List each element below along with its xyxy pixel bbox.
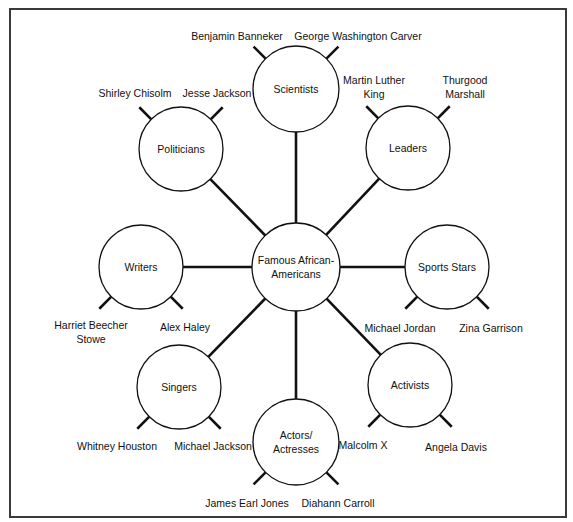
example-label: ThurgoodMarshall [443, 74, 488, 100]
connector-singers-0 [137, 417, 149, 429]
example-label-line: Michael Jordan [364, 322, 435, 334]
connector-activists-0 [368, 415, 380, 427]
connector-sports-stars-1 [477, 297, 489, 309]
example-label-line: Jesse Jackson [183, 87, 252, 99]
example-label-line: James Earl Jones [205, 497, 288, 509]
node-label: Scientists [274, 83, 319, 95]
connector-activists-1 [440, 415, 452, 427]
example-label-line: Shirley Chisolm [99, 87, 172, 99]
connector-scientists-1 [326, 47, 338, 59]
spoke-singers [208, 299, 265, 357]
center-label-line: Famous African- [258, 254, 335, 266]
example-label-line: Diahann Carroll [302, 497, 375, 509]
node-actors-actresses: Actors/Actresses [253, 399, 339, 485]
example-label: George Washington Carver [294, 30, 422, 42]
connector-writers-0 [99, 297, 111, 309]
example-label: Whitney Houston [77, 440, 157, 452]
example-label-line: King [363, 88, 384, 100]
example-label-line: Thurgood [443, 74, 488, 86]
node-politicians: Politicians [139, 107, 223, 191]
example-label-line: Malcolm X [338, 439, 387, 451]
center-node: Famous African-Americans [252, 223, 340, 311]
spoke-leaders [326, 179, 379, 235]
node-singers: Singers [137, 345, 221, 429]
example-label-line: Angela Davis [425, 441, 487, 453]
node-leaders: Leaders [366, 106, 450, 190]
node-label-line: Actors/ [280, 429, 313, 441]
connector-scientists-0 [254, 47, 266, 59]
example-label-line: Benjamin Banneker [191, 30, 283, 42]
example-label-line: Whitney Houston [77, 440, 157, 452]
connector-writers-1 [171, 297, 183, 309]
node-label-line: Scientists [274, 83, 319, 95]
node-sports-stars: Sports Stars [405, 225, 489, 309]
connector-leaders-1 [438, 106, 450, 118]
example-label: Jesse Jackson [183, 87, 252, 99]
example-label: Michael Jordan [364, 322, 435, 334]
example-label: Zina Garrison [459, 322, 523, 334]
example-label-line: Martin Luther [343, 74, 405, 86]
node-label: Leaders [389, 142, 427, 154]
example-label: Malcolm X [338, 439, 387, 451]
center-label-line: Americans [271, 268, 321, 280]
example-label-line: George Washington Carver [294, 30, 422, 42]
node-label: Singers [161, 381, 197, 393]
node-writers: Writers [99, 225, 183, 309]
connector-singers-1 [209, 417, 221, 429]
category-nodes: ScientistsLeadersSports StarsActivistsAc… [99, 46, 489, 485]
node-label: Writers [124, 261, 157, 273]
node-label: Sports Stars [418, 261, 476, 273]
connector-actors-actresses-0 [254, 472, 266, 484]
example-label: Harriet BeecherStowe [54, 319, 128, 345]
example-label: James Earl Jones [205, 497, 288, 509]
example-label-line: Harriet Beecher [54, 319, 128, 331]
node-scientists: Scientists [253, 46, 339, 132]
node-label: Politicians [157, 143, 204, 155]
example-label: Michael Jackson [174, 440, 252, 452]
node-label-line: Activists [391, 379, 430, 391]
example-label: Shirley Chisolm [99, 87, 172, 99]
node-activists: Activists [368, 343, 452, 427]
node-label-line: Singers [161, 381, 197, 393]
example-label: Benjamin Banneker [191, 30, 283, 42]
node-label-line: Writers [124, 261, 157, 273]
example-label-line: Zina Garrison [459, 322, 523, 334]
connector-politicians-1 [211, 107, 223, 119]
spoke-politicians [210, 179, 265, 235]
example-label-line: Marshall [445, 88, 485, 100]
connector-actors-actresses-1 [326, 472, 338, 484]
example-label-line: Michael Jackson [174, 440, 252, 452]
connector-politicians-0 [139, 107, 151, 119]
example-label-line: Stowe [76, 333, 105, 345]
node-label-line: Sports Stars [418, 261, 476, 273]
example-label: Alex Haley [160, 321, 211, 333]
node-label-line: Politicians [157, 143, 204, 155]
example-label: Angela Davis [425, 441, 487, 453]
node-label: Activists [391, 379, 430, 391]
connector-leaders-0 [366, 106, 378, 118]
example-label-line: Alex Haley [160, 321, 211, 333]
node-label-line: Actresses [273, 443, 319, 455]
connector-sports-stars-0 [405, 297, 417, 309]
node-label-line: Leaders [389, 142, 427, 154]
concept-web-diagram: ScientistsLeadersSports StarsActivistsAc… [0, 0, 573, 522]
example-label: Martin LutherKing [343, 74, 405, 100]
example-label: Diahann Carroll [302, 497, 375, 509]
